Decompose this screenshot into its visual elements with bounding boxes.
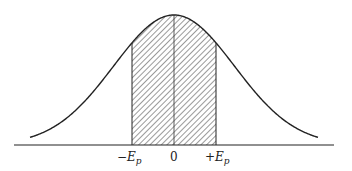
label-plus-ep: +Ep (205, 150, 230, 166)
label-minus-ep: −Ep (117, 150, 142, 166)
label-zero: 0 (170, 150, 178, 164)
normal-curve-diagram: −Ep 0 +Ep (0, 0, 352, 171)
